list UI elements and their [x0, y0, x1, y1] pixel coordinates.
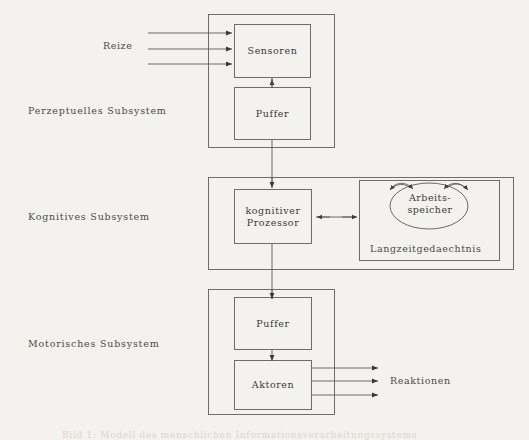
side-label-cognitive: Kognitives Subsystem	[28, 211, 150, 222]
block-arbeitsspeicher-line1: Arbeits-	[390, 192, 470, 204]
side-label-perceptual: Perzeptuelles Subsystem	[28, 105, 167, 116]
label-reaktionen: Reaktionen	[390, 375, 451, 386]
diagram-canvas: Perzeptuelles Subsystem Kognitives Subsy…	[0, 0, 529, 440]
block-kognitiver-prozessor-line2: Prozessor	[247, 217, 300, 229]
block-puffer-perceptual[interactable]: Puffer	[234, 87, 311, 140]
block-kognitiver-prozessor[interactable]: kognitiver Prozessor	[234, 189, 312, 244]
block-aktoren[interactable]: Aktoren	[234, 360, 312, 410]
block-sensoren[interactable]: Sensoren	[234, 24, 311, 78]
block-kognitiver-prozessor-line1: kognitiver	[245, 205, 300, 217]
label-reize: Reize	[103, 40, 132, 51]
block-puffer-motor-label: Puffer	[256, 318, 289, 330]
block-arbeitsspeicher-line2: speicher	[390, 204, 470, 216]
block-langzeitgedaechtnis-label: Langzeitgedaechtnis	[370, 243, 481, 254]
block-arbeitsspeicher[interactable]: Arbeits- speicher	[390, 192, 470, 215]
block-sensoren-label: Sensoren	[248, 45, 298, 57]
side-label-motor: Motorisches Subsystem	[28, 338, 159, 349]
block-puffer-perceptual-label: Puffer	[256, 108, 289, 120]
block-puffer-motor[interactable]: Puffer	[234, 297, 312, 350]
block-aktoren-label: Aktoren	[252, 379, 295, 391]
figure-caption: Bild 1: Modell des menschlichen Informat…	[62, 430, 417, 440]
